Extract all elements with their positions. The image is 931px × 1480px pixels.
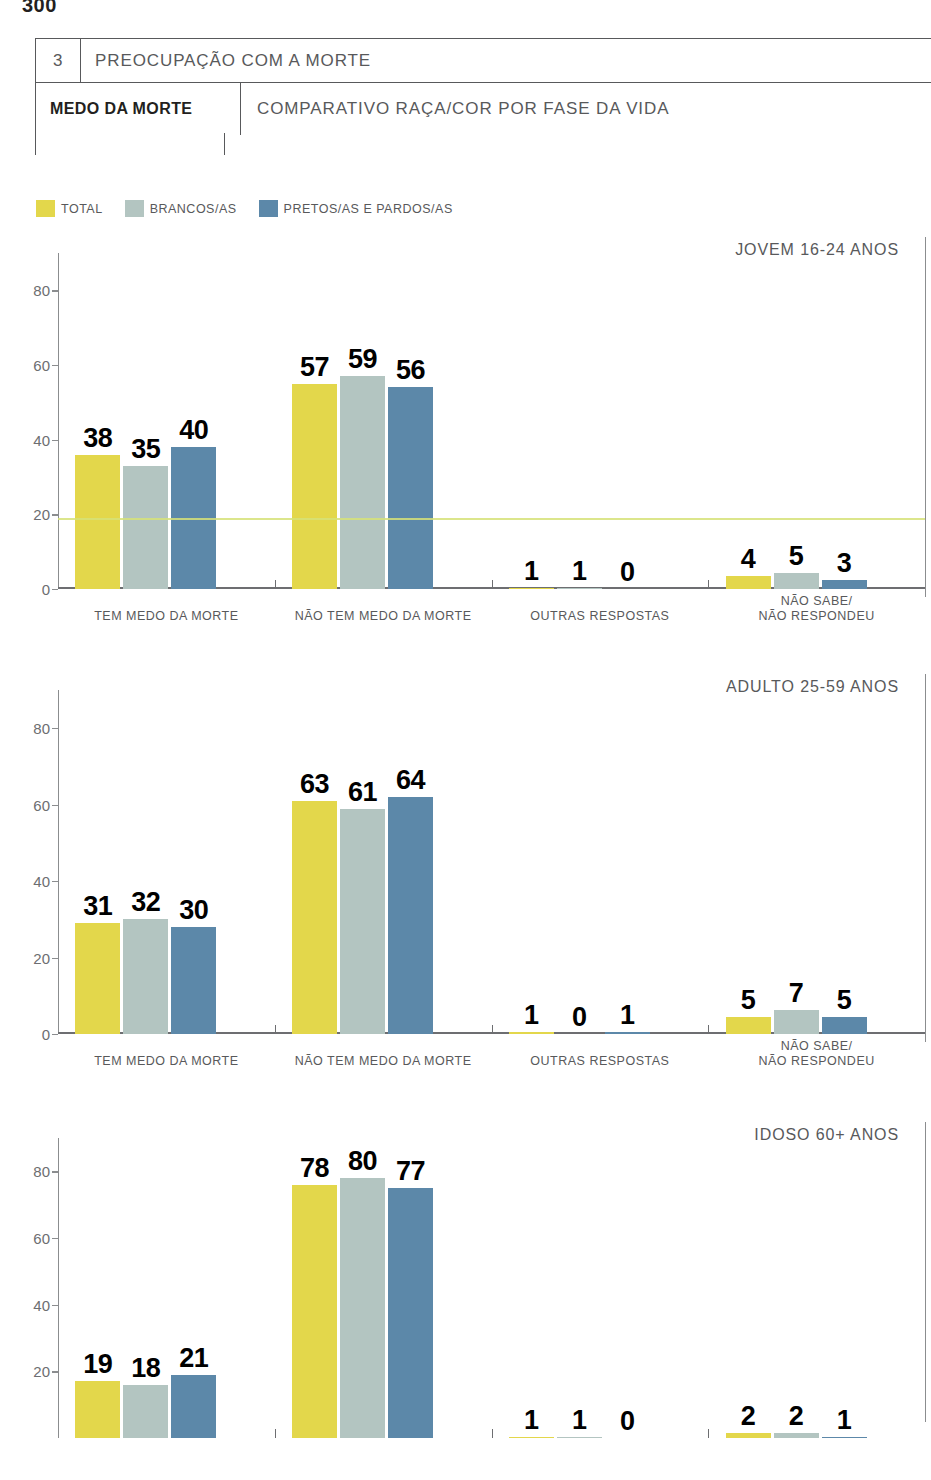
bar-item[interactable]: 4 xyxy=(726,253,771,589)
bar[interactable] xyxy=(123,466,168,589)
bar-value-label: 57 xyxy=(300,354,329,381)
bar-item[interactable]: 7 xyxy=(774,690,819,1034)
bar-value-label: 18 xyxy=(131,1355,160,1382)
bar-item[interactable]: 5 xyxy=(726,690,771,1034)
bar[interactable] xyxy=(75,1381,120,1438)
bar-value-label: 32 xyxy=(131,889,160,916)
plot-area: 191821788077110221 20406080 xyxy=(58,1138,925,1438)
bar[interactable] xyxy=(557,588,602,589)
bar-group: 221 xyxy=(708,1138,925,1438)
header-divider-mid xyxy=(224,133,225,155)
bar[interactable] xyxy=(292,1185,337,1438)
bar-item[interactable]: 57 xyxy=(292,253,337,589)
chart-panel-jovem: JOVEM 16-24 ANOS 383540TEM MEDO DA MORTE… xyxy=(0,235,931,655)
bar[interactable] xyxy=(75,455,120,589)
bar[interactable] xyxy=(171,447,216,589)
section-title: PREOCUPAÇÃO COM A MORTE xyxy=(81,39,931,82)
bar[interactable] xyxy=(388,1188,433,1438)
bar-item[interactable]: 5 xyxy=(822,690,867,1034)
bar-value-label: 63 xyxy=(300,771,329,798)
y-axis-tick-label: 60 xyxy=(6,357,50,374)
bar[interactable] xyxy=(340,809,385,1035)
bar[interactable] xyxy=(822,1017,867,1034)
bar-item[interactable]: 59 xyxy=(340,253,385,589)
bar[interactable] xyxy=(171,927,216,1034)
bar[interactable] xyxy=(509,1032,554,1034)
bar[interactable] xyxy=(123,1385,168,1438)
header-divider-left xyxy=(35,133,36,155)
legend-item: TOTAL xyxy=(36,200,103,217)
bar-item[interactable]: 61 xyxy=(340,690,385,1034)
bar-item[interactable]: 0 xyxy=(605,253,650,589)
bar-item[interactable]: 21 xyxy=(171,1138,216,1438)
bar[interactable] xyxy=(340,1178,385,1438)
bar[interactable] xyxy=(774,573,819,589)
bar[interactable] xyxy=(557,1437,602,1438)
bar-item[interactable]: 2 xyxy=(726,1138,771,1438)
bar[interactable] xyxy=(605,1032,650,1034)
bar-item[interactable]: 5 xyxy=(774,253,819,589)
bar-item[interactable]: 1 xyxy=(822,1138,867,1438)
bar-item[interactable]: 0 xyxy=(557,690,602,1034)
bars-container: 221 xyxy=(726,1138,867,1438)
bar[interactable] xyxy=(388,797,433,1034)
bar[interactable] xyxy=(171,1375,216,1438)
bar-item[interactable]: 3 xyxy=(822,253,867,589)
bar[interactable] xyxy=(774,1010,819,1034)
legend-swatch xyxy=(125,200,144,217)
bar[interactable] xyxy=(292,384,337,589)
bar-item[interactable]: 38 xyxy=(75,253,120,589)
bar[interactable] xyxy=(726,576,771,589)
legend-item: PRETOS/AS E PARDOS/AS xyxy=(259,200,453,217)
bar-item[interactable]: 40 xyxy=(171,253,216,589)
bar-item[interactable]: 56 xyxy=(388,253,433,589)
bar-item[interactable]: 1 xyxy=(557,1138,602,1438)
y-axis-tick-mark xyxy=(52,1371,58,1372)
bar[interactable] xyxy=(822,580,867,589)
bar-item[interactable]: 1 xyxy=(557,253,602,589)
bar-item[interactable]: 31 xyxy=(75,690,120,1034)
bar-value-label: 1 xyxy=(524,1407,539,1434)
bar-item[interactable]: 1 xyxy=(509,1138,554,1438)
bar-item[interactable]: 2 xyxy=(774,1138,819,1438)
bar-value-label: 1 xyxy=(572,1407,587,1434)
bar-item[interactable]: 1 xyxy=(509,690,554,1034)
bar-item[interactable]: 77 xyxy=(388,1138,433,1438)
bar[interactable] xyxy=(340,376,385,589)
bar-item[interactable]: 78 xyxy=(292,1138,337,1438)
bar[interactable] xyxy=(774,1433,819,1438)
bar[interactable] xyxy=(822,1437,867,1438)
bar-item[interactable]: 35 xyxy=(123,253,168,589)
y-axis-tick-label: 20 xyxy=(6,1363,50,1380)
topic-label: MEDO DA MORTE xyxy=(35,83,241,135)
y-axis-tick-mark xyxy=(52,290,58,291)
bar-item[interactable]: 19 xyxy=(75,1138,120,1438)
plot-area: 383540TEM MEDO DA MORTE575956NÃO TEM MED… xyxy=(58,253,925,589)
bar-item[interactable]: 0 xyxy=(605,1138,650,1438)
bar-item[interactable]: 63 xyxy=(292,690,337,1034)
bar-item[interactable]: 30 xyxy=(171,690,216,1034)
bar-item[interactable]: 18 xyxy=(123,1138,168,1438)
bars-container: 575956 xyxy=(292,253,433,589)
bar-item[interactable]: 64 xyxy=(388,690,433,1034)
bar-item[interactable]: 32 xyxy=(123,690,168,1034)
bar[interactable] xyxy=(388,387,433,589)
bar[interactable] xyxy=(726,1017,771,1034)
bar[interactable] xyxy=(509,1437,554,1438)
bar[interactable] xyxy=(123,919,168,1034)
category-label: OUTRAS RESPOSTAS xyxy=(492,1054,709,1070)
bar[interactable] xyxy=(726,1433,771,1438)
bar-value-label: 1 xyxy=(524,558,539,585)
y-axis-tick-mark xyxy=(52,805,58,806)
bar-value-label: 1 xyxy=(572,558,587,585)
bar-item[interactable]: 80 xyxy=(340,1138,385,1438)
bar[interactable] xyxy=(292,801,337,1034)
bar-item[interactable]: 1 xyxy=(509,253,554,589)
bar[interactable] xyxy=(509,588,554,589)
bar[interactable] xyxy=(75,923,120,1034)
y-axis-tick-mark xyxy=(52,1034,58,1035)
header-row-section: 3 PREOCUPAÇÃO COM A MORTE xyxy=(35,38,931,82)
bar-value-label: 19 xyxy=(83,1351,112,1378)
bar-item[interactable]: 1 xyxy=(605,690,650,1034)
y-axis-tick-mark xyxy=(52,365,58,366)
